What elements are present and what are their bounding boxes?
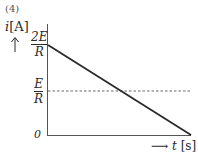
tick-2E-over-R: 2E R [31, 31, 47, 58]
x-axis-label: ⟶ t [s] [151, 139, 196, 152]
up-arrow-icon [12, 38, 19, 53]
origin-label: 0 [34, 128, 41, 141]
tick-E-over-R: E R [34, 78, 43, 105]
x-axis-symbol: t [172, 139, 177, 152]
right-arrow-icon: ⟶ [151, 139, 168, 152]
plot-area [0, 0, 198, 152]
current-line [48, 45, 191, 135]
x-axis-unit: [s] [181, 139, 197, 152]
